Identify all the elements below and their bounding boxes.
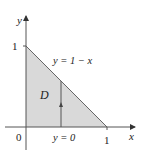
curve-label-lower: y = 0 xyxy=(52,132,76,143)
y-tick-label: 1 xyxy=(12,40,18,52)
origin-label: 0 xyxy=(16,131,22,143)
region-diagram: y 1 y = 1 − x D 0 y = 0 1 x xyxy=(0,0,142,160)
region-label: D xyxy=(39,88,49,102)
curve-label-upper: y = 1 − x xyxy=(52,55,93,66)
x-tick-label: 1 xyxy=(104,134,110,146)
x-axis-label: x xyxy=(128,130,134,142)
y-axis-label: y xyxy=(16,14,22,26)
